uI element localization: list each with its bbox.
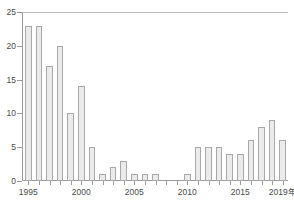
bar-1997 <box>46 66 53 181</box>
x-axis-tick <box>219 181 220 185</box>
x-axis-label: 1995 <box>19 188 38 197</box>
bar-1996 <box>36 26 43 181</box>
bar-2007 <box>152 174 159 181</box>
bar-2006 <box>142 174 149 181</box>
x-axis-tick <box>187 181 188 185</box>
y-axis-tick <box>17 181 22 182</box>
bar-2010 <box>184 174 191 181</box>
x-axis-label: 2010 <box>178 188 197 197</box>
bar-2013 <box>216 147 223 181</box>
cropped-title-strip <box>0 0 294 6</box>
x-axis-tick <box>92 181 93 185</box>
bar-1999 <box>67 113 74 181</box>
x-axis-tick <box>240 181 241 185</box>
bar-2012 <box>205 147 212 181</box>
bar-2003 <box>110 167 117 181</box>
y-axis-tick <box>17 12 22 13</box>
bar-2001 <box>89 147 96 181</box>
bar-2015 <box>237 154 244 181</box>
bar-1995 <box>25 26 32 181</box>
bar-2005 <box>131 174 138 181</box>
x-axis-tick <box>230 181 231 185</box>
x-axis-tick <box>134 181 135 185</box>
x-axis-label: 2015 <box>231 188 250 197</box>
bar-chart: 0510152025 199520002005201020152019年 <box>0 0 294 202</box>
y-axis-tick <box>17 113 22 114</box>
x-axis-tick <box>251 181 252 185</box>
y-axis-label: 10 <box>0 109 16 118</box>
y-axis-label: 25 <box>0 8 16 17</box>
y-axis-label: 0 <box>0 177 16 186</box>
x-axis-label: 2000 <box>72 188 91 197</box>
x-axis-tick <box>81 181 82 185</box>
x-axis-tick <box>262 181 263 185</box>
x-axis-tick <box>71 181 72 185</box>
x-axis-label: 2019年 <box>269 188 294 197</box>
x-axis-tick <box>209 181 210 185</box>
bar-1998 <box>57 46 64 181</box>
bar-2002 <box>99 174 106 181</box>
x-axis-tick <box>60 181 61 185</box>
bar-2000 <box>78 86 85 181</box>
bar-2016 <box>248 140 255 181</box>
x-axis-tick <box>177 181 178 185</box>
x-axis-tick <box>283 181 284 185</box>
x-axis-tick <box>156 181 157 185</box>
bar-series <box>23 12 288 181</box>
y-axis-tick <box>17 46 22 47</box>
y-axis-tick <box>17 80 22 81</box>
x-axis-tick <box>198 181 199 185</box>
x-axis-tick <box>145 181 146 185</box>
x-axis-tick <box>166 181 167 185</box>
x-axis-tick <box>113 181 114 185</box>
bar-2017 <box>258 127 265 181</box>
y-axis-label: 20 <box>0 42 16 51</box>
x-axis-tick <box>50 181 51 185</box>
x-axis-tick <box>39 181 40 185</box>
y-axis-label: 5 <box>0 143 16 152</box>
bar-2019 <box>279 140 286 181</box>
bar-2014 <box>226 154 233 181</box>
x-axis-tick <box>124 181 125 185</box>
y-axis-label: 15 <box>0 76 16 85</box>
bar-2018 <box>269 120 276 181</box>
x-axis-label: 2005 <box>125 188 144 197</box>
x-axis-tick <box>28 181 29 185</box>
bar-2004 <box>120 161 127 181</box>
bar-2011 <box>195 147 202 181</box>
x-axis-tick <box>103 181 104 185</box>
y-axis-tick <box>17 147 22 148</box>
x-axis-tick <box>272 181 273 185</box>
